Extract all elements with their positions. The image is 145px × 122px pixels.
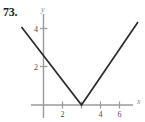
coordinate-plane-figure: 2 4 6 4 2 x y — [0, 0, 145, 122]
y-tick-label-2: 2 — [34, 63, 38, 72]
x-tick-label-4: 4 — [99, 110, 103, 119]
absolute-value-graph-curve — [22, 22, 139, 105]
y-axis-label: y — [40, 5, 45, 14]
y-tick-label-4: 4 — [34, 25, 38, 34]
x-tick-label-2: 2 — [61, 110, 65, 119]
x-tick-label-6: 6 — [118, 110, 122, 119]
x-axis-label: x — [136, 97, 141, 106]
figure-screenshot: 73. 2 4 6 4 2 x y — [0, 0, 145, 122]
